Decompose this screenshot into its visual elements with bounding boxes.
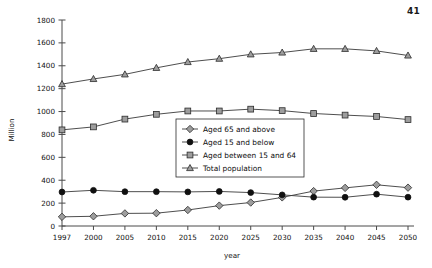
data-point-circle <box>185 189 191 195</box>
data-point-square <box>311 111 317 117</box>
x-tick-label: 2000 <box>84 233 103 242</box>
series-circle <box>59 187 411 200</box>
data-point-square <box>91 124 97 130</box>
x-tick-label: 2005 <box>116 233 134 242</box>
x-tick-label: 2010 <box>147 233 166 242</box>
y-tick-label: 1600 <box>37 38 56 47</box>
data-point-square <box>279 108 285 114</box>
x-tick-label: 2035 <box>304 233 322 242</box>
x-tick-label: 2045 <box>367 233 385 242</box>
x-tick-label: 2050 <box>399 233 418 242</box>
x-tick-label: 2015 <box>179 233 197 242</box>
data-point-diamond <box>247 199 254 206</box>
data-point-circle <box>91 187 97 193</box>
data-point-diamond <box>184 206 191 213</box>
y-tick-label: 1800 <box>37 16 56 25</box>
y-tick-label: 1400 <box>37 61 56 70</box>
data-point-square <box>122 116 128 122</box>
y-tick-label: 600 <box>41 153 55 162</box>
data-point-square <box>187 152 193 158</box>
data-point-square <box>185 108 191 114</box>
x-tick-label: 2030 <box>273 233 292 242</box>
y-tick-label: 800 <box>41 130 55 139</box>
data-point-circle <box>374 191 380 197</box>
chart-canvas: 020040060080010001200140016001800 199720… <box>0 0 432 268</box>
population-projection-line-chart: 020040060080010001200140016001800 199720… <box>0 0 432 268</box>
data-point-square <box>342 112 348 118</box>
series-triangle <box>59 45 412 86</box>
x-tick-label: 2025 <box>242 233 260 242</box>
legend-label: Aged 15 and below <box>203 138 274 147</box>
data-point-diamond <box>90 213 97 220</box>
data-point-circle <box>248 190 254 196</box>
data-point-circle <box>311 194 317 200</box>
legend-label: Aged between 15 and 64 <box>203 151 296 160</box>
data-point-circle <box>153 189 159 195</box>
data-point-diamond <box>153 209 160 216</box>
series-diamond <box>58 181 411 220</box>
x-axis: 1997200020052010201520202025203020352040… <box>53 226 418 242</box>
x-tick-label: 2040 <box>336 233 355 242</box>
data-point-circle <box>122 189 128 195</box>
y-axis-title: Million <box>7 118 16 141</box>
x-tick-label: 1997 <box>53 233 71 242</box>
data-point-diamond <box>341 184 348 191</box>
y-axis: 020040060080010001200140016001800 <box>37 16 66 231</box>
data-point-diamond <box>373 181 380 188</box>
series-line <box>62 190 408 197</box>
data-point-diamond <box>121 210 128 217</box>
y-tick-label: 1000 <box>37 107 56 116</box>
legend-label: Aged 65 and above <box>203 125 275 134</box>
data-point-circle <box>405 194 411 200</box>
data-point-circle <box>279 192 285 198</box>
data-point-circle <box>342 194 348 200</box>
x-tick-label: 2020 <box>210 233 229 242</box>
legend-label: Total population <box>202 164 262 173</box>
data-point-diamond <box>404 184 411 191</box>
data-point-square <box>216 108 222 114</box>
series-line <box>62 185 408 217</box>
y-tick-label: 0 <box>50 222 55 231</box>
y-tick-label: 400 <box>41 176 55 185</box>
data-point-square <box>248 106 254 112</box>
x-axis-title: year <box>224 251 240 260</box>
data-point-square <box>59 127 65 133</box>
series-line <box>62 49 408 84</box>
data-point-diamond <box>58 213 65 220</box>
y-tick-label: 200 <box>41 199 55 208</box>
chart-legend: Aged 65 and aboveAged 15 and belowAged b… <box>176 119 304 177</box>
data-point-diamond <box>310 187 317 194</box>
data-point-circle <box>216 189 222 195</box>
data-point-circle <box>59 189 65 195</box>
data-point-diamond <box>216 202 223 209</box>
data-point-square <box>405 117 411 123</box>
y-tick-label: 1200 <box>37 84 56 93</box>
data-point-circle <box>187 139 193 145</box>
data-point-square <box>153 111 159 117</box>
data-point-square <box>374 114 380 120</box>
